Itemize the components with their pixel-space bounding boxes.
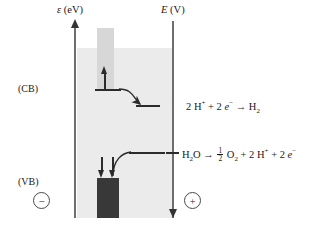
potential-axis-symbol: E	[161, 4, 167, 15]
energy-axis-arrowhead-icon	[71, 19, 79, 28]
reduction-reaction-equation: 2 H+ + 2 e− → H2	[186, 100, 260, 115]
energy-axis-line	[74, 21, 76, 218]
potential-axis-label: E (V)	[161, 5, 185, 16]
oxidation-electron-charge: −	[292, 147, 296, 155]
hole-arrow-head-one-icon	[98, 170, 104, 178]
oxidation-arrow: →	[201, 149, 217, 160]
conduction-band-label: (CB)	[18, 84, 38, 94]
oxidation-water-h: H	[182, 149, 190, 160]
conduction-band-edge-level-line	[95, 89, 121, 91]
oxidation-proton-term: + 2 H	[238, 149, 265, 160]
semiconductor-field-region	[77, 48, 173, 218]
reduction-reactant: 2 H	[186, 101, 201, 112]
potential-axis-tick-mark	[166, 152, 179, 154]
electron-acceptor-level-line	[136, 105, 160, 107]
reduction-plus: + 2	[205, 101, 224, 112]
negative-charge-circle-icon: −	[33, 192, 50, 209]
potential-axis-arrowhead-icon	[169, 209, 177, 218]
positive-charge-circle-icon: +	[184, 192, 201, 209]
oxidation-plus-two: + 2	[269, 149, 288, 160]
potential-axis-unit: (V)	[170, 4, 185, 15]
energy-axis-symbol: ε	[57, 4, 61, 15]
oxidation-reaction-equation: H2O → 12 O2 + 2 H+ + 2 e−	[182, 147, 296, 164]
hole-arrow-head-two-icon	[109, 170, 115, 178]
band-diagram-figure: ε (eV) E (V) (CB) (VB) − + 2 H+ + 2 e	[0, 0, 334, 227]
valence-band-label: (VB)	[18, 177, 39, 187]
valence-band-block	[97, 178, 119, 218]
energy-axis-unit: (eV)	[64, 4, 83, 15]
oxidation-half-fraction: 12	[217, 147, 223, 164]
oxidation-water-o: O	[193, 149, 201, 160]
reduction-product-subscript: 2	[256, 107, 260, 115]
energy-axis-label: ε (eV)	[57, 5, 83, 16]
fraction-denominator: 2	[217, 155, 223, 163]
water-oxidation-level-line	[129, 152, 165, 154]
excitation-arrow-head-icon	[101, 66, 107, 74]
excitation-arrow-shaft	[104, 72, 106, 89]
oxidation-oxygen: O	[224, 149, 234, 160]
excitation-column-block	[97, 28, 114, 90]
reduction-arrow: → H	[233, 101, 256, 112]
potential-axis-line	[172, 21, 174, 218]
